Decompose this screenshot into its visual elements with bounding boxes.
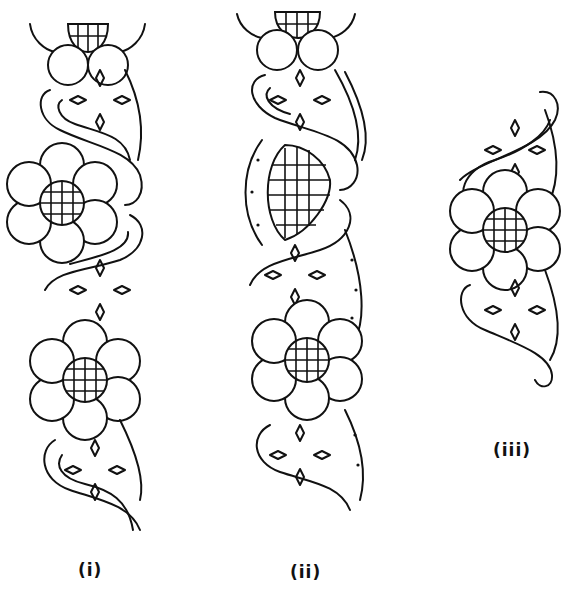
embroidery-patterns-drawing xyxy=(0,0,579,596)
pattern-i xyxy=(7,24,145,530)
panel-label-i: (i) xyxy=(78,560,102,580)
pattern-ii xyxy=(237,12,366,510)
pattern-iii xyxy=(450,92,560,387)
panel-label-iii: (iii) xyxy=(493,440,531,460)
panel-label-ii: (ii) xyxy=(290,562,321,582)
